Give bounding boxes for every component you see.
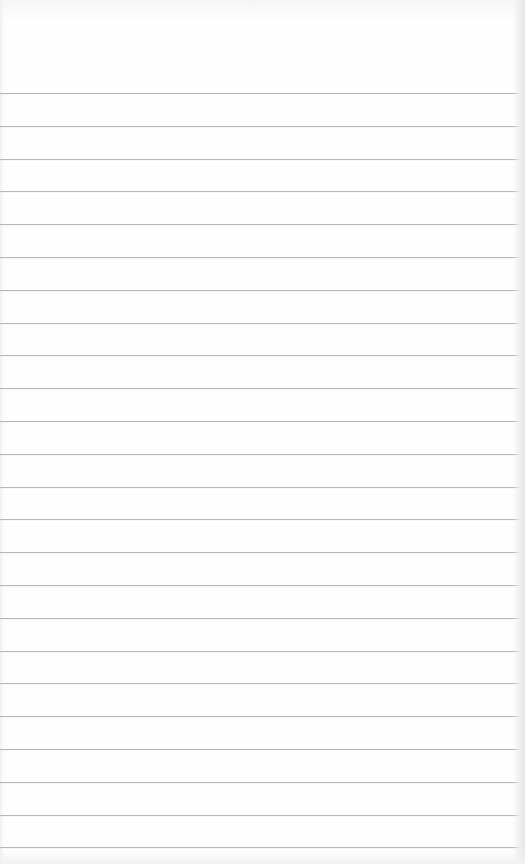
ruled-line xyxy=(0,618,520,619)
ruled-line xyxy=(0,257,520,258)
bottom-edge-shading xyxy=(0,850,525,864)
ruled-line xyxy=(0,847,520,848)
ruled-line xyxy=(0,93,520,94)
lined-paper-page xyxy=(0,0,525,864)
ruled-line xyxy=(0,716,520,717)
ruled-line xyxy=(0,323,520,324)
ruled-line xyxy=(0,454,520,455)
ruled-line xyxy=(0,749,520,750)
ruled-line xyxy=(0,651,520,652)
ruled-line xyxy=(0,552,520,553)
ruled-line xyxy=(0,683,520,684)
ruled-line xyxy=(0,519,520,520)
ruled-line xyxy=(0,585,520,586)
ruled-line xyxy=(0,290,520,291)
ruled-line xyxy=(0,388,520,389)
top-edge-shading xyxy=(0,0,525,20)
ruled-line xyxy=(0,782,520,783)
ruled-line xyxy=(0,815,520,816)
ruled-line xyxy=(0,126,520,127)
ruled-line xyxy=(0,224,520,225)
ruled-line xyxy=(0,159,520,160)
ruled-line xyxy=(0,191,520,192)
ruled-line xyxy=(0,487,520,488)
left-edge-shading xyxy=(0,0,4,864)
right-edge-shadow xyxy=(513,0,525,864)
ruled-line xyxy=(0,421,520,422)
ruled-line xyxy=(0,355,520,356)
